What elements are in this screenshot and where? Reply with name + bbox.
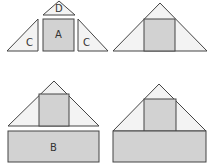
label-c-right: C [83, 37, 90, 48]
base-rectangle [113, 131, 206, 162]
assembled-square [39, 94, 69, 126]
triangle-c-left [7, 19, 38, 51]
label-c-left: C [26, 37, 33, 48]
assembled-square [144, 19, 175, 51]
label-a: A [55, 29, 62, 40]
panel-bottom-right [113, 84, 206, 162]
panel-top-right [113, 3, 207, 51]
panel-bottom-left: B [8, 81, 99, 162]
shape-diagram: D C A C B [0, 0, 215, 168]
roof-square [144, 99, 176, 131]
label-b: B [50, 142, 57, 153]
label-d: D [55, 3, 63, 14]
panel-top-left: D C A C [7, 1, 108, 51]
